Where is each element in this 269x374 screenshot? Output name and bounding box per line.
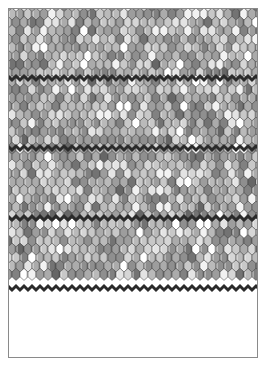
page-root xyxy=(0,0,269,374)
roof-tile-pattern-artwork xyxy=(0,0,269,374)
